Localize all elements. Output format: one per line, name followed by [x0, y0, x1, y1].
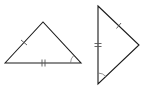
left-triangle-outline — [5, 22, 81, 63]
angle-arc-mark — [71, 55, 74, 63]
right-triangle — [95, 6, 140, 84]
right-triangle-outline — [98, 6, 139, 84]
diagram-canvas — [0, 0, 144, 86]
angle-arc-mark — [98, 73, 106, 77]
left-triangle — [5, 22, 81, 67]
